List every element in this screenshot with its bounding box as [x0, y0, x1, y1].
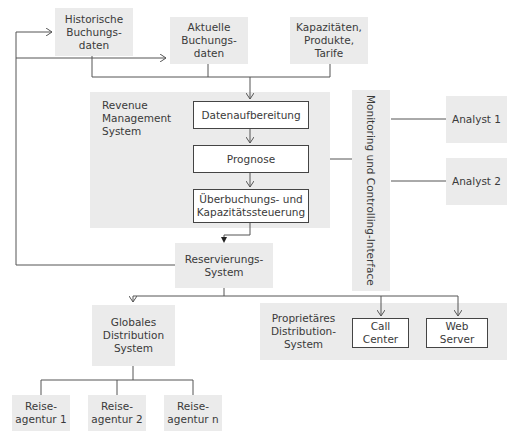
connector-lines — [0, 0, 514, 441]
